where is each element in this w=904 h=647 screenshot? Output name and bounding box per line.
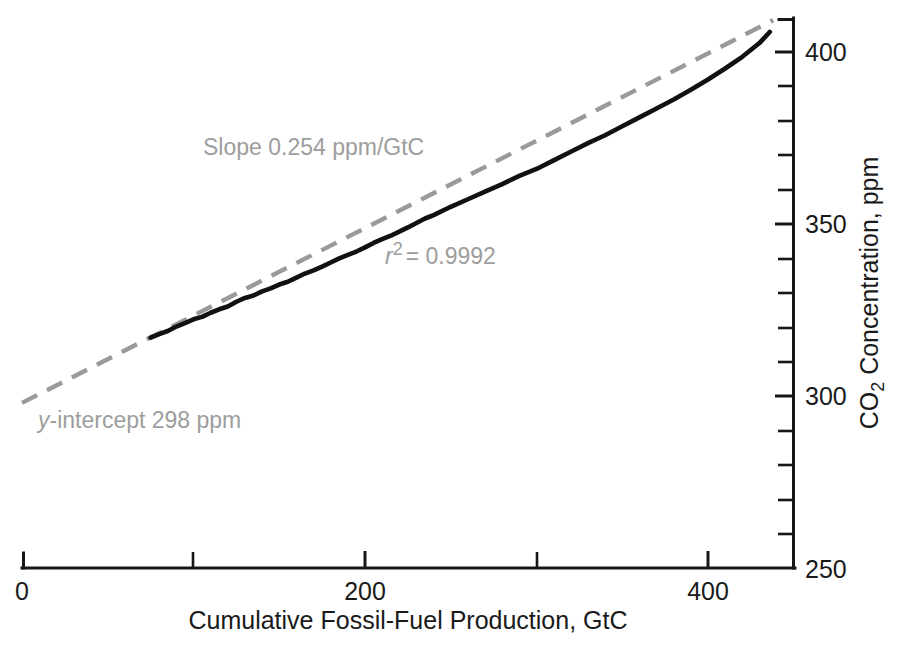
y-tick-label-350: 350 bbox=[805, 210, 847, 238]
y-tick-labels: 400 350 300 250 bbox=[805, 38, 847, 583]
r-superscript: 2 bbox=[393, 239, 403, 259]
x-tick-label-400: 400 bbox=[687, 577, 729, 605]
chart-canvas: 0 200 400 400 350 300 250 Cumulative Fos… bbox=[0, 0, 904, 647]
axis-frame bbox=[22, 18, 795, 568]
figure-root: 0 200 400 400 350 300 250 Cumulative Fos… bbox=[0, 0, 904, 647]
x-axis-ticks bbox=[193, 551, 708, 568]
y-axis-title-subscript: 2 bbox=[868, 382, 888, 392]
x-tick-label-200: 200 bbox=[344, 577, 386, 605]
y-tick-label-400: 400 bbox=[805, 38, 847, 66]
annotation-slope: Slope 0.254 ppm/GtC bbox=[203, 134, 424, 160]
linear-fit-line bbox=[22, 20, 773, 403]
r-squared-value: = 0.9992 bbox=[406, 243, 496, 269]
annotation-r-squared: r2= 0.9992 bbox=[385, 239, 496, 269]
annotation-y-intercept: y-intercept 298 ppm bbox=[36, 407, 241, 433]
x-tick-label-0: 0 bbox=[15, 577, 29, 605]
y-axis-ticks bbox=[775, 52, 793, 534]
y-intercept-text: -intercept 298 ppm bbox=[50, 407, 242, 433]
co2-data-line bbox=[151, 32, 770, 337]
y-axis-title-pre: CO bbox=[855, 392, 883, 430]
y-axis-title: CO2 Concentration, ppm bbox=[855, 157, 888, 430]
x-axis-title: Cumulative Fossil-Fuel Production, GtC bbox=[188, 606, 627, 634]
y-axis-title-post: Concentration, ppm bbox=[855, 157, 883, 382]
y-tick-label-300: 300 bbox=[805, 382, 847, 410]
y-tick-label-250: 250 bbox=[805, 555, 847, 583]
x-tick-labels: 0 200 400 bbox=[15, 577, 729, 605]
